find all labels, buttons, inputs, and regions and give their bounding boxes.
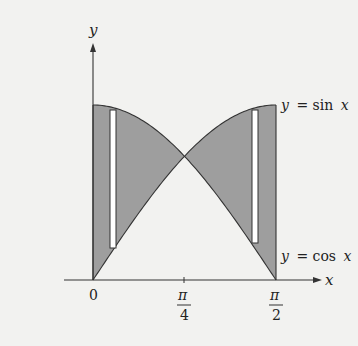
x-tick-label-pi-over-4-denominator: 4 [180, 307, 189, 323]
y-axis-label: y [88, 21, 98, 39]
sine-curve-label: y = sin x [280, 97, 349, 113]
diagram-canvas: y x 0 π 4 π 2 y = sin x y = cos x [0, 0, 358, 346]
x-tick-label-pi-over-4-numerator: π [177, 287, 188, 303]
shaded-region-right [185, 105, 277, 280]
x-axis-label: x [325, 271, 334, 289]
representative-rectangle-right [252, 110, 258, 243]
x-tick-label-pi-over-2-denominator: 2 [272, 307, 281, 323]
x-tick-label-0: 0 [89, 287, 98, 303]
x-tick-label-pi-over-2-numerator: π [269, 287, 280, 303]
y-axis-arrow-icon [90, 43, 96, 52]
x-axis-arrow-icon [313, 277, 322, 283]
representative-rectangle-left [110, 110, 116, 248]
cosine-curve-label: y = cos x [280, 248, 351, 264]
area-between-curves-figure: y x 0 π 4 π 2 y = sin x y = cos x [0, 0, 358, 346]
shaded-region-left [93, 105, 185, 280]
